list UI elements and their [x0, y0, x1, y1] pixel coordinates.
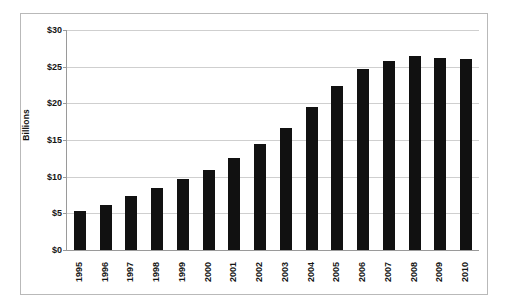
x-axis-tick-labels: 1995199619971998199920002001200220032004…	[66, 252, 478, 296]
x-axis-tick-slot: 2000	[195, 252, 221, 296]
bar-slot	[376, 30, 402, 250]
bar	[306, 107, 318, 250]
chart-screenshot: Billions $0$5$10$15$20$25$30 19951996199…	[0, 0, 506, 306]
bar-slot	[67, 30, 93, 250]
x-axis-tick-label: 1996	[100, 262, 110, 282]
y-axis-tick-label: $15	[30, 135, 62, 145]
bar-slot	[247, 30, 273, 250]
y-axis-tick-label: $30	[30, 25, 62, 35]
x-axis-tick-slot: 2006	[349, 252, 375, 296]
x-axis-tick-slot: 1997	[118, 252, 144, 296]
bar-slot	[325, 30, 351, 250]
bar-slot	[402, 30, 428, 250]
bar-slot	[222, 30, 248, 250]
x-axis-tick-slot: 1995	[66, 252, 92, 296]
bar	[254, 144, 266, 250]
y-axis-tick-labels: $0$5$10$15$20$25$30	[30, 0, 62, 306]
plot-area	[66, 30, 479, 251]
x-axis-tick-slot: 2007	[375, 252, 401, 296]
bar-slot	[273, 30, 299, 250]
x-axis-tick-label: 1995	[74, 262, 84, 282]
x-axis-tick-label: 1998	[151, 262, 161, 282]
y-axis-tick-label: $5	[30, 208, 62, 218]
x-axis-tick-label: 2001	[228, 262, 238, 282]
x-axis-tick-label: 2000	[203, 262, 213, 282]
x-axis-tick-label: 2006	[357, 262, 367, 282]
bar	[177, 179, 189, 250]
bar	[100, 205, 112, 250]
x-axis-tick-slot: 2001	[221, 252, 247, 296]
x-axis-tick-label: 1999	[177, 262, 187, 282]
bar-slot	[119, 30, 145, 250]
x-axis-tick-slot: 1998	[143, 252, 169, 296]
bar	[203, 170, 215, 250]
x-axis-tick-slot: 2005	[324, 252, 350, 296]
x-axis-tick-label: 2004	[306, 262, 316, 282]
bar-slot	[144, 30, 170, 250]
bar	[331, 86, 343, 250]
bar	[228, 158, 240, 250]
bar	[151, 188, 163, 250]
x-axis-tick-slot: 2009	[427, 252, 453, 296]
x-axis-tick-label: 2010	[460, 262, 470, 282]
x-axis-tick-label: 2007	[383, 262, 393, 282]
bar-slot	[350, 30, 376, 250]
bar-slot	[93, 30, 119, 250]
gridline	[67, 250, 479, 251]
bar	[74, 211, 86, 250]
bar	[460, 59, 472, 250]
x-axis-tick-slot: 1999	[169, 252, 195, 296]
x-axis-tick-label: 2009	[434, 262, 444, 282]
bar-slot	[428, 30, 454, 250]
bar-slot	[453, 30, 479, 250]
y-axis-tick-label: $0	[30, 245, 62, 255]
y-axis-tick-label: $20	[30, 98, 62, 108]
x-axis-tick-label: 2003	[280, 262, 290, 282]
x-axis-tick-slot: 2010	[452, 252, 478, 296]
bar-slot	[299, 30, 325, 250]
x-axis-tick-label: 2002	[254, 262, 264, 282]
bar-series	[67, 30, 479, 250]
bar	[280, 128, 292, 250]
x-axis-tick-slot: 1996	[92, 252, 118, 296]
bar	[383, 61, 395, 250]
bar	[434, 58, 446, 250]
x-axis-tick-slot: 2008	[401, 252, 427, 296]
bar-slot	[170, 30, 196, 250]
bar-slot	[196, 30, 222, 250]
bar	[409, 56, 421, 250]
y-axis-tick-label: $10	[30, 172, 62, 182]
y-axis-tick-label: $25	[30, 62, 62, 72]
y-axis-tick-mark	[63, 250, 67, 251]
bar	[125, 196, 137, 250]
x-axis-tick-slot: 2002	[246, 252, 272, 296]
x-axis-tick-label: 1997	[125, 262, 135, 282]
x-axis-tick-label: 2008	[409, 262, 419, 282]
bar	[357, 69, 369, 250]
x-axis-tick-slot: 2003	[272, 252, 298, 296]
x-axis-tick-label: 2005	[331, 262, 341, 282]
x-axis-tick-slot: 2004	[298, 252, 324, 296]
